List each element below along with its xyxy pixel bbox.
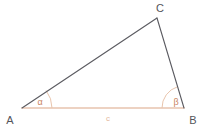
side-bc [157,18,184,108]
triangle-diagram: A B C α β c [0,0,203,127]
side-label-c: c [106,114,110,123]
angle-arc-alpha [46,90,52,108]
vertex-label-b: B [189,114,196,126]
angle-label-alpha: α [37,97,42,107]
angle-label-beta: β [173,97,178,107]
side-ac [22,18,157,108]
triangle-diagram-canvas: A B C α β c [0,0,203,127]
vertex-label-c: C [156,2,164,14]
vertex-label-a: A [6,114,14,126]
